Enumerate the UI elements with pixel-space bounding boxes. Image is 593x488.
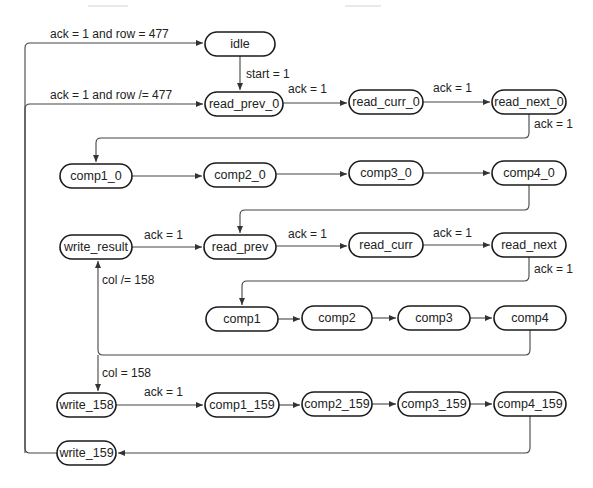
state-label: comp1_0 [70, 169, 121, 183]
edge-label-row-neq-477: ack = 1 and row /= 477 [50, 88, 172, 102]
edge-comp4-159-to-write-159 [118, 416, 530, 453]
state-label: comp2 [318, 311, 356, 325]
state-write-result[interactable]: write_result [60, 235, 132, 259]
edge-label-ack: ack = 1 [288, 82, 327, 96]
edge-label-start: start = 1 [246, 67, 290, 81]
edge-read-next-to-comp1 [242, 257, 529, 305]
edge-label-ack: ack = 1 [144, 228, 183, 242]
edge-label-ack: ack = 1 [433, 81, 472, 95]
edge-comp4-0-to-read-prev [240, 185, 529, 233]
state-write-159[interactable]: write_159 [57, 441, 116, 465]
state-comp1-0[interactable]: comp1_0 [60, 164, 132, 188]
edge-label-col-neq-158: col /= 158 [102, 273, 155, 287]
state-label: write_159 [58, 446, 113, 460]
state-comp3-159[interactable]: comp3_159 [398, 392, 470, 416]
state-label: read_prev_0 [209, 97, 279, 111]
state-read-next[interactable]: read_next [492, 233, 566, 257]
state-comp2[interactable]: comp2 [302, 306, 372, 330]
state-comp2-159[interactable]: comp2_159 [302, 392, 372, 416]
state-write-158[interactable]: write_158 [57, 393, 116, 417]
state-label: comp1_159 [209, 398, 274, 412]
edge-label-ack: ack = 1 [433, 226, 472, 240]
state-label: read_prev [212, 240, 269, 254]
state-read-prev[interactable]: read_prev [204, 235, 276, 259]
edge-comp4-to-junction [98, 330, 530, 355]
state-read-curr[interactable]: read_curr [349, 233, 423, 257]
state-label: comp2_159 [304, 397, 369, 411]
state-label: comp1 [223, 312, 261, 326]
scan-artifact [88, 5, 128, 7]
state-idle[interactable]: idle [205, 32, 275, 56]
edge-label-row-eq-477: ack = 1 and row = 477 [50, 27, 169, 41]
state-comp4-159[interactable]: comp4_159 [494, 392, 566, 416]
state-comp4-0[interactable]: comp4_0 [492, 161, 566, 185]
state-label: write_result [63, 240, 128, 254]
state-label: read_next [501, 238, 557, 252]
state-comp2-0[interactable]: comp2_0 [204, 163, 276, 187]
state-read-curr-0[interactable]: read_curr_0 [349, 90, 423, 114]
state-label: comp4_159 [497, 397, 562, 411]
state-label: comp3_0 [360, 166, 411, 180]
edge-label-col-eq-158: col = 158 [102, 366, 151, 380]
state-label: comp4_0 [503, 166, 554, 180]
state-label: read_next_0 [494, 95, 564, 109]
state-label: read_curr [359, 238, 413, 252]
edge-label-ack: ack = 1 [144, 385, 183, 399]
state-label: write_158 [58, 398, 113, 412]
state-diagram: ack = 1 and row = 477 ack = 1 and row /=… [0, 0, 593, 488]
scan-artifact [345, 5, 381, 7]
state-comp4[interactable]: comp4 [494, 306, 566, 330]
state-read-prev-0[interactable]: read_prev_0 [205, 92, 283, 116]
edge-label-ack: ack = 1 [534, 262, 573, 276]
state-label: comp3 [415, 311, 453, 325]
state-label: comp3_159 [401, 397, 466, 411]
state-read-next-0[interactable]: read_next_0 [492, 90, 566, 114]
state-label: idle [230, 37, 250, 51]
edge-read-next-0-to-comp1-0 [96, 114, 529, 162]
state-label: comp2_0 [214, 168, 265, 182]
state-comp3[interactable]: comp3 [398, 306, 470, 330]
edge-label-ack: ack = 1 [288, 227, 327, 241]
state-comp1-159[interactable]: comp1_159 [205, 393, 279, 417]
state-comp3-0[interactable]: comp3_0 [349, 161, 423, 185]
state-label: comp4 [511, 311, 549, 325]
state-label: read_curr_0 [352, 95, 419, 109]
edge-label-ack: ack = 1 [534, 117, 573, 131]
state-comp1[interactable]: comp1 [206, 307, 278, 331]
